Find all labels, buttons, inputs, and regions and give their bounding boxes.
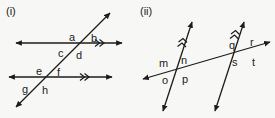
angle-label-p: p: [182, 74, 188, 85]
angle-label-h: h: [42, 85, 48, 96]
angle-label-g: g: [22, 84, 28, 95]
angle-label-t: t: [252, 57, 255, 68]
angle-label-e: e: [36, 66, 42, 77]
geometry-figure-sheet: (i) (ii) abcdefghmnopqrst: [0, 0, 275, 118]
angle-label-r: r: [250, 37, 254, 48]
angle-label-d: d: [76, 50, 82, 61]
angle-label-m: m: [159, 58, 168, 69]
angle-label-f: f: [57, 67, 60, 78]
angle-label-b: b: [91, 33, 97, 44]
figure-ii-parallel-line-right: [215, 22, 244, 111]
figure-i-caption: (i): [6, 6, 16, 17]
figure-ii-parallel-tick-right: [230, 31, 240, 40]
figure-ii-caption: (ii): [140, 6, 152, 17]
angle-label-s: s: [232, 57, 238, 68]
angle-label-q: q: [229, 40, 235, 51]
figure-i-transversal-line: [16, 13, 110, 107]
angle-label-n: n: [181, 55, 187, 66]
angle-label-a: a: [69, 32, 75, 43]
angle-label-c: c: [58, 48, 64, 59]
angle-label-o: o: [162, 75, 168, 86]
